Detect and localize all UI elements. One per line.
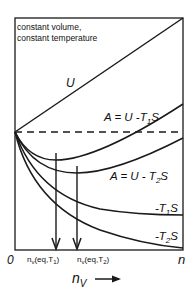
x-axis-label: nV bbox=[72, 270, 88, 289]
label-A-T1-suffix: S bbox=[151, 111, 159, 123]
eq-T1-label: nv(eq,T1) bbox=[27, 255, 59, 265]
eq-T1-end: ) bbox=[56, 255, 59, 264]
label-T1S-suffix: S bbox=[170, 202, 178, 214]
free-energy-diagram: constant volume, constant temperature U … bbox=[0, 0, 196, 303]
label-A-T1: A = U -T1S bbox=[103, 111, 159, 126]
label-T2S-suffix: S bbox=[170, 230, 178, 242]
x-axis-label-sub: V bbox=[80, 278, 88, 289]
eq-T2-mid: (eq,T bbox=[84, 255, 103, 264]
eq-T1-mid: (eq,T bbox=[34, 255, 53, 264]
eq-T2-end: ) bbox=[106, 255, 109, 264]
label-A-T2-suffix: S bbox=[160, 170, 168, 182]
label-A-T1-prefix: A = U -T bbox=[103, 111, 148, 123]
label-A-T2: A = U - T2S bbox=[109, 170, 168, 185]
axis-origin-label: 0 bbox=[7, 253, 14, 267]
x-axis-label-base: n bbox=[72, 270, 80, 286]
curve-A-T2 bbox=[15, 132, 183, 173]
label-U: U bbox=[66, 76, 75, 90]
caption-line-2: constant temperature bbox=[17, 33, 98, 43]
eq-T2-label: nv(eq,T2) bbox=[77, 255, 109, 265]
label-minus-T2S: -T2S bbox=[155, 230, 178, 245]
x-axis-arrow-head-icon bbox=[112, 276, 121, 283]
axis-end-label: n bbox=[178, 252, 185, 267]
caption-line-1: constant volume, bbox=[17, 22, 81, 32]
label-A-T2-prefix: A = U - T bbox=[109, 170, 157, 182]
